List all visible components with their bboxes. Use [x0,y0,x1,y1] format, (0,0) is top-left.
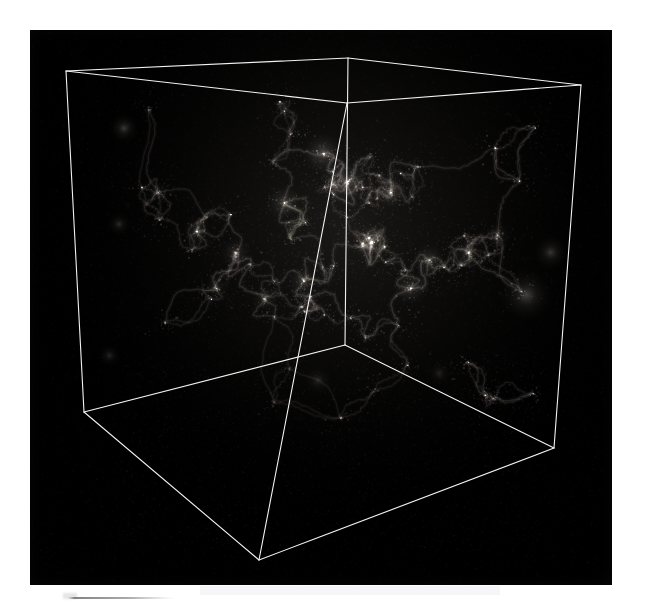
simulation-box-wireframe [30,30,612,585]
caption-rule [68,597,176,599]
figure-panel [30,30,612,585]
page-root [0,0,649,606]
paper-tone-artifact [200,586,500,595]
wireframe-edges [66,58,581,560]
